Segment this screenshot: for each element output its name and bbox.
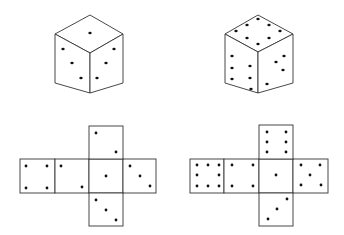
pip-dot	[282, 55, 285, 58]
pip-dot	[79, 77, 82, 80]
pip-dot	[129, 165, 132, 168]
pip-dot	[231, 185, 234, 188]
pip-dot	[267, 218, 270, 221]
face-left-2	[55, 159, 89, 193]
pip-dot	[267, 24, 270, 27]
pip-dot	[61, 48, 64, 51]
net-left	[20, 126, 156, 226]
pip-dot	[139, 175, 142, 178]
pip-dot	[274, 61, 277, 64]
pip-dot	[230, 55, 233, 58]
pip-dot	[25, 187, 28, 190]
face-top	[259, 125, 293, 159]
pip-dot	[207, 164, 210, 167]
pip-dot	[252, 164, 255, 167]
pip-dot	[218, 174, 221, 177]
pip-dot	[245, 24, 248, 27]
pip-dot	[46, 165, 49, 168]
pip-dot	[285, 151, 288, 154]
pip-dot	[196, 174, 199, 177]
pip-dot	[112, 48, 115, 51]
pip-dot	[218, 164, 221, 167]
pip-dot	[81, 186, 84, 189]
cube-left	[55, 15, 123, 93]
pip-dot	[60, 165, 63, 168]
pip-dot	[207, 185, 210, 188]
pip-dot	[149, 185, 152, 188]
pip-dot	[256, 43, 259, 46]
pip-dot	[248, 77, 251, 80]
pip-dot	[196, 164, 199, 167]
pip-dot	[286, 198, 289, 201]
pip-dot	[256, 18, 259, 21]
pip-dot	[196, 185, 199, 188]
pip-dot	[105, 209, 108, 212]
pip-dot	[88, 32, 91, 35]
pip-dot	[281, 69, 284, 72]
pip-dot	[266, 151, 269, 154]
pip-dot	[252, 185, 255, 188]
face-top	[89, 126, 123, 159]
nets-group	[20, 125, 328, 226]
net-right	[190, 125, 328, 226]
pip-dot	[285, 131, 288, 134]
pip-dot	[300, 184, 303, 187]
pip-dot	[319, 164, 322, 167]
pip-dot	[115, 151, 118, 154]
pip-dot	[46, 187, 49, 190]
pip-dot	[285, 141, 288, 144]
pip-dot	[278, 30, 281, 33]
pip-dot	[25, 165, 28, 168]
pip-dot	[248, 65, 251, 68]
pip-dot	[95, 77, 98, 80]
cubes-group	[55, 15, 293, 93]
pip-dot	[105, 175, 108, 178]
pip-dot	[266, 131, 269, 134]
pip-dot	[276, 208, 279, 211]
pip-dot	[266, 141, 269, 144]
pip-dot	[95, 132, 98, 135]
pip-dot	[70, 62, 73, 65]
pip-dot	[320, 184, 323, 187]
pip-dot	[230, 78, 233, 81]
dice-diagram	[0, 0, 344, 235]
pip-dot	[230, 67, 233, 70]
pip-dot	[309, 174, 312, 177]
pip-dot	[218, 185, 221, 188]
pip-dot	[95, 199, 98, 202]
pip-dot	[234, 30, 237, 33]
pip-dot	[249, 88, 252, 91]
pip-dot	[267, 37, 270, 40]
pip-dot	[115, 219, 118, 222]
pip-dot	[265, 83, 268, 86]
pip-dot	[300, 164, 303, 167]
pip-dot	[245, 37, 248, 40]
cube-right	[225, 15, 293, 93]
pip-dot	[275, 174, 278, 177]
pip-dot	[104, 62, 107, 65]
pip-dot	[231, 164, 234, 167]
